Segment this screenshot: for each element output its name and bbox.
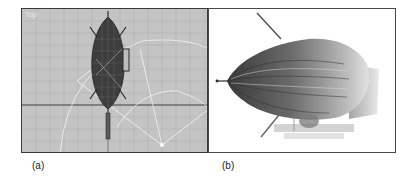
- viewport-scene: [22, 9, 208, 153]
- rendered-scene: [209, 9, 396, 153]
- render-panel-b: [208, 8, 396, 153]
- caption-a: (a): [32, 160, 44, 171]
- caption-b: (b): [222, 160, 234, 171]
- light-source-point: [160, 143, 164, 147]
- airship-render: [216, 13, 379, 139]
- viewport-panel-a: Top: [21, 8, 208, 153]
- airship-wireframe: [90, 11, 129, 139]
- viewport-label: Top: [25, 11, 37, 18]
